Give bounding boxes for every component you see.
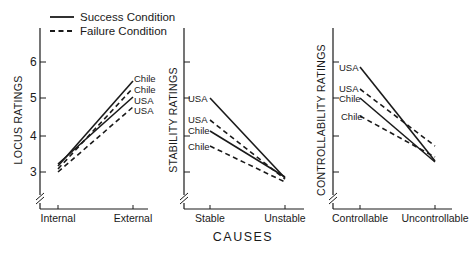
locus-tick-3: 3 xyxy=(30,165,37,179)
locus-label-usa-failure: USA xyxy=(134,105,154,116)
control-label-usa-success: USA xyxy=(339,62,359,73)
panel-controllability: CONTROLLABILITY RATINGS Controllable Unc… xyxy=(315,28,469,224)
legend: Success Condition Failure Condition xyxy=(50,11,175,37)
locus-tick-5: 5 xyxy=(30,91,37,105)
control-x-controllable: Controllable xyxy=(332,212,388,224)
stability-label-usa-failure: USA xyxy=(188,114,208,125)
panel-locus: 6 5 4 3 LOCUS RATINGS Internal External … xyxy=(12,28,156,224)
control-usa-failure-line xyxy=(360,89,435,146)
legend-failure-label: Failure Condition xyxy=(80,25,167,37)
locus-tick-6: 6 xyxy=(30,55,37,69)
stability-x-stable: Stable xyxy=(195,212,225,224)
locus-usa-success-line xyxy=(58,97,133,164)
locus-usa-failure-line xyxy=(58,107,133,172)
locus-chile-failure-line xyxy=(58,88,133,169)
stability-label-chile-success: Chile xyxy=(188,125,210,136)
control-label-chile-success: Chile xyxy=(339,93,361,104)
figure-canvas: Success Condition Failure Condition 6 5 … xyxy=(0,0,474,253)
control-label-chile-failure: Chile xyxy=(341,111,363,122)
shared-x-label-causes: CAUSES xyxy=(213,230,273,244)
stability-label-chile-failure: Chile xyxy=(188,141,210,152)
panel-stability: STABILITY RATINGS Stable Unstable USA US… xyxy=(167,28,306,244)
locus-label-chile-failure: Chile xyxy=(134,84,156,95)
locus-label-chile-success: Chile xyxy=(134,73,156,84)
control-y-label: CONTROLLABILITY RATINGS xyxy=(315,44,327,196)
stability-x-unstable: Unstable xyxy=(264,212,306,224)
locus-y-label: LOCUS RATINGS xyxy=(12,76,24,165)
control-chile-success-line xyxy=(360,98,435,162)
locus-x-internal: Internal xyxy=(40,212,75,224)
stability-label-usa-success: USA xyxy=(188,93,208,104)
stability-y-label: STABILITY RATINGS xyxy=(167,67,179,172)
locus-x-external: External xyxy=(114,212,153,224)
stability-chile-failure-line xyxy=(210,146,285,182)
control-x-uncontrollable: Uncontrollable xyxy=(401,212,468,224)
locus-tick-4: 4 xyxy=(30,129,37,143)
control-usa-success-line xyxy=(360,67,435,161)
legend-success-label: Success Condition xyxy=(80,11,175,23)
